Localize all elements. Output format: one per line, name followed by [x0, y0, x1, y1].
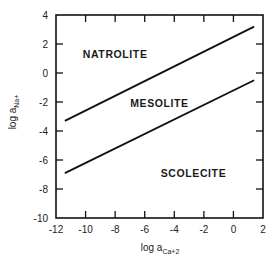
x-tick-label: -2: [199, 224, 208, 235]
x-tick-label: -6: [140, 224, 149, 235]
phase-diagram-chart: -12-10-8-6-4-202 420-2-4-6-8-10 NATROLIT…: [0, 0, 275, 266]
plot-frame: [56, 15, 263, 218]
y-tick-label: -2: [39, 97, 48, 108]
phase-field-labels: NATROLITEMESOLITESCOLECITE: [83, 48, 226, 179]
x-tick-label: 0: [231, 224, 237, 235]
y-axis-ticks: 420-2-4-6-8-10: [34, 10, 263, 224]
y-tick-label: -6: [39, 155, 48, 166]
phase-field-label: NATROLITE: [83, 48, 148, 60]
y-axis-title: log aNa+: [7, 95, 20, 130]
phase-field-label: MESOLITE: [130, 97, 188, 109]
x-tick-label: -4: [170, 224, 179, 235]
y-tick-label: 4: [42, 10, 48, 21]
y-tick-label: 2: [42, 39, 48, 50]
plot-border: [56, 15, 263, 218]
x-tick-label: -8: [111, 224, 120, 235]
x-tick-label: -10: [78, 224, 93, 235]
phase-boundary-line: [65, 80, 254, 173]
x-tick-label: 2: [260, 224, 266, 235]
x-axis-ticks: -12-10-8-6-4-202: [49, 15, 266, 235]
phase-field-label: SCOLECITE: [161, 167, 227, 179]
y-tick-label: -8: [39, 184, 48, 195]
x-tick-label: -12: [49, 224, 64, 235]
y-tick-label: 0: [42, 68, 48, 79]
x-axis-title: log aCa+2: [141, 242, 180, 255]
y-tick-label: -4: [39, 126, 48, 137]
y-tick-label: -10: [34, 213, 49, 224]
